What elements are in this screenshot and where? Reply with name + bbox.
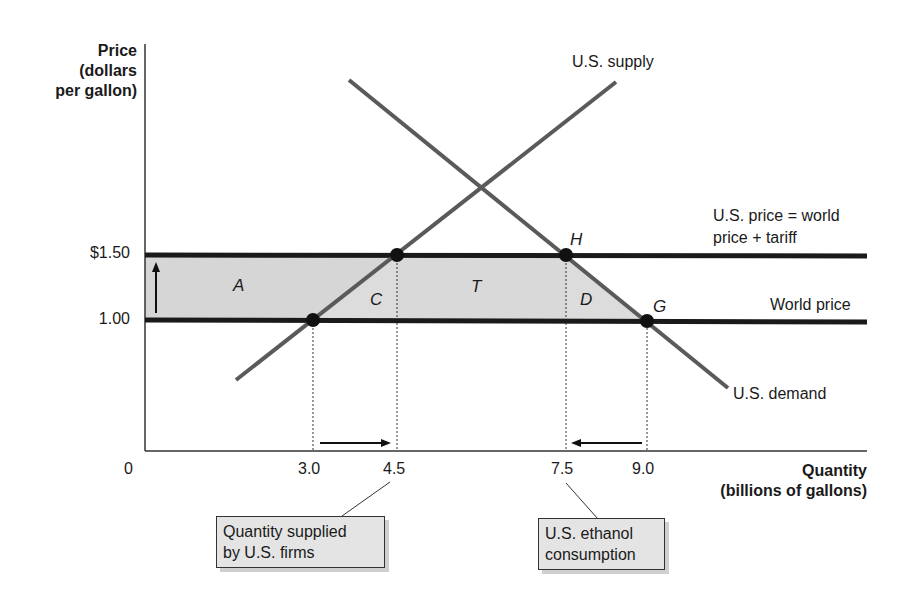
point-h-label: H xyxy=(570,230,582,250)
arrow-left-head-icon xyxy=(571,439,581,447)
arrow-right-head-icon xyxy=(381,439,391,447)
area-a-label: A xyxy=(233,276,244,296)
callout-supplied-line1: Quantity supplied xyxy=(223,521,378,542)
y-tick-150: $1.50 xyxy=(70,244,130,262)
x-axis-label-line1: Quantity xyxy=(680,461,867,481)
supply-curve xyxy=(236,82,616,380)
x-axis-label-line2: (billions of gallons) xyxy=(680,481,867,501)
callout-consumption-line1: U.S. ethanol xyxy=(545,523,658,544)
point-supply-tariff xyxy=(390,248,404,262)
shaded-area-t xyxy=(397,255,566,320)
area-d-label: D xyxy=(580,290,592,310)
tariff-line-label-line1: U.S. price = world xyxy=(713,205,840,227)
y-axis-label: Price (dollars per gallon) xyxy=(40,41,137,101)
y-axis-label-line1: Price xyxy=(40,41,137,61)
point-supply-world xyxy=(306,313,320,327)
area-t-label: T xyxy=(471,277,481,297)
x-tick-9-0: 9.0 xyxy=(632,460,654,478)
demand-label: U.S. demand xyxy=(733,385,826,403)
demand-curve xyxy=(349,80,728,388)
x-axis-label: Quantity (billions of gallons) xyxy=(680,461,867,501)
y-axis-label-line2: (dollars xyxy=(40,61,137,81)
area-c-label: C xyxy=(370,290,382,310)
world-price-line xyxy=(145,320,867,322)
x-tick-0: 0 xyxy=(124,460,133,478)
x-tick-3-0: 3.0 xyxy=(298,460,320,478)
tariff-line-label-line2: price + tariff xyxy=(713,227,840,249)
callout-leader-consumption xyxy=(566,483,598,519)
y-tick-100: 1.00 xyxy=(70,310,130,328)
callout-consumption-line2: consumption xyxy=(545,544,658,565)
callout-leader-supplied xyxy=(342,482,390,516)
tariff-price-line xyxy=(145,255,867,256)
callout-quantity-supplied: Quantity supplied by U.S. firms xyxy=(216,516,385,568)
supply-label: U.S. supply xyxy=(572,53,654,71)
y-axis-label-line3: per gallon) xyxy=(40,81,137,101)
tariff-line-label: U.S. price = world price + tariff xyxy=(713,205,840,249)
point-g-label: G xyxy=(653,297,666,317)
point-g xyxy=(640,314,654,328)
x-tick-4-5: 4.5 xyxy=(383,460,405,478)
callout-ethanol-consumption: U.S. ethanol consumption xyxy=(538,518,665,570)
world-price-label: World price xyxy=(770,296,851,314)
callout-supplied-line2: by U.S. firms xyxy=(223,542,378,563)
x-tick-7-5: 7.5 xyxy=(551,460,573,478)
point-h xyxy=(559,248,573,262)
